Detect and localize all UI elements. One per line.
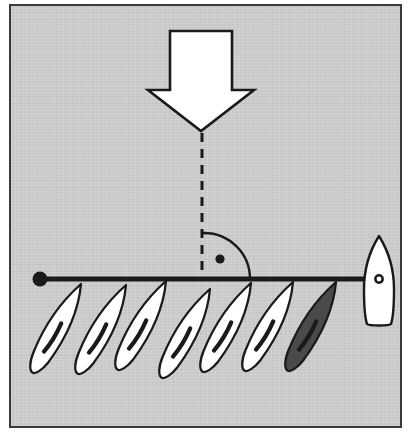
mechanism-diagram — [11, 6, 400, 426]
blade-array — [24, 276, 345, 383]
angle-center-dot — [215, 254, 224, 263]
figure-frame — [9, 4, 402, 428]
quarter-angle-arc — [204, 233, 250, 279]
shaft-left-end-dot — [33, 272, 48, 287]
hull-body — [364, 236, 394, 326]
screenshot-canvas — [0, 0, 411, 436]
downward-load-arrow — [148, 31, 254, 131]
hull-port-hole-inner — [377, 277, 382, 282]
